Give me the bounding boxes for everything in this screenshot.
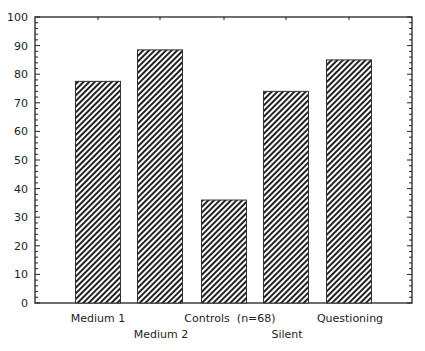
bar-controls-n-68	[202, 200, 247, 303]
y-tick-label: 100	[7, 11, 28, 24]
y-tick-label: 50	[14, 154, 28, 167]
category-label-silent: Silent	[271, 328, 303, 341]
category-label-medium-1: Medium 1	[71, 312, 125, 325]
category-label-questioning: Questioning	[317, 312, 383, 325]
y-tick-label: 30	[14, 211, 28, 224]
y-tick-label: 20	[14, 240, 28, 253]
y-tick-label: 70	[14, 97, 28, 110]
y-tick-label: 80	[14, 68, 28, 81]
bar-silent	[264, 91, 309, 303]
y-tick-label: 60	[14, 125, 28, 138]
bar-medium-2	[138, 50, 183, 303]
y-tick-label: 10	[14, 268, 28, 281]
bar-medium-1	[76, 81, 121, 303]
category-label-medium-2: Medium 2	[134, 328, 188, 341]
y-tick-label: 0	[21, 297, 28, 310]
x-axis-labels: Medium 1 Medium 2 Controls (n=68) Silent…	[71, 312, 383, 341]
bar-questioning	[327, 60, 372, 303]
bars	[76, 50, 372, 303]
y-tick-label: 40	[14, 183, 28, 196]
y-tick-label: 90	[14, 40, 28, 53]
bar-chart: 0102030405060708090100 Medium 1 Medium 2…	[0, 0, 425, 351]
category-label-controls: Controls (n=68)	[184, 312, 275, 325]
